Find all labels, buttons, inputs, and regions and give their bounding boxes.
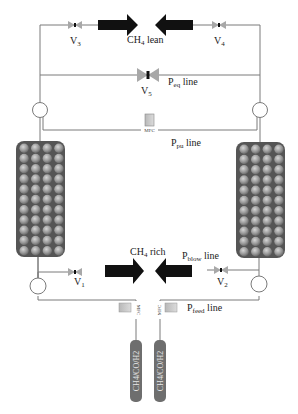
adsorbent-bead bbox=[43, 205, 52, 214]
mfc-label: MFC bbox=[136, 305, 141, 316]
adsorbent-bead bbox=[31, 185, 40, 194]
adsorbent-bead bbox=[274, 155, 283, 164]
feed-line-left bbox=[38, 296, 136, 340]
adsorbent-bead bbox=[251, 216, 260, 225]
adsorbent-bead bbox=[43, 195, 52, 204]
adsorbent-bead bbox=[274, 237, 283, 246]
adsorbent-bead bbox=[239, 237, 248, 246]
valve-v2[interactable] bbox=[214, 266, 228, 274]
adsorbent-bead bbox=[239, 227, 248, 236]
adsorbent-bead bbox=[251, 155, 260, 164]
adsorbent-bead bbox=[239, 145, 248, 154]
pblow-line-label: Pblow line bbox=[182, 250, 220, 263]
pressure-gauge-top-right bbox=[253, 103, 268, 118]
adsorbent-bead bbox=[31, 195, 40, 204]
adsorbent-bead bbox=[251, 165, 260, 174]
adsorbent-bead bbox=[239, 175, 248, 184]
adsorbent-bead bbox=[43, 226, 52, 235]
valve-stem bbox=[74, 23, 76, 27]
adsorbent-bead bbox=[31, 246, 40, 255]
pressure-gauge-top-left bbox=[33, 103, 48, 118]
adsorbent-bead bbox=[54, 215, 63, 224]
adsorbent-bead bbox=[274, 247, 283, 256]
adsorbent-bead bbox=[239, 186, 248, 195]
valve-v1[interactable] bbox=[68, 268, 82, 276]
valve-v1-label: V1 bbox=[74, 276, 85, 289]
adsorbent-bead bbox=[43, 185, 52, 194]
mfc-label: MFC bbox=[157, 304, 162, 315]
adsorbent-bead bbox=[263, 216, 272, 225]
adsorbent-bead bbox=[31, 226, 40, 235]
adsorbent-bead bbox=[251, 247, 260, 256]
gas-cylinder-right: CH4/CO/H2 bbox=[154, 340, 166, 402]
adsorbent-bead bbox=[263, 175, 272, 184]
adsorbent-bead bbox=[54, 174, 63, 183]
adsorbent-bead bbox=[54, 226, 63, 235]
valve-icon bbox=[214, 266, 221, 274]
mfc-purge: MFC bbox=[141, 114, 158, 133]
cylinder-label: CH4/CO/H2 bbox=[132, 351, 141, 391]
valve-v4-label: V4 bbox=[214, 35, 225, 48]
valve-icon-half bbox=[219, 21, 226, 29]
adsorbent-bead bbox=[263, 237, 272, 246]
pfeed-line-label: Pfeed line bbox=[187, 302, 223, 315]
mfc-body bbox=[165, 303, 177, 312]
adsorbent-bead bbox=[263, 155, 272, 164]
adsorbent-bead bbox=[263, 145, 272, 154]
ch4-rich-label: CH4 rich bbox=[130, 246, 165, 259]
adsorbent-bead bbox=[43, 144, 52, 153]
arrow-left-icon bbox=[155, 258, 192, 284]
adsorbent-bead bbox=[263, 165, 272, 174]
adsorbent-bead bbox=[54, 205, 63, 214]
valve-stem bbox=[74, 270, 76, 274]
valve-v3[interactable] bbox=[68, 21, 82, 29]
adsorption-column-left bbox=[16, 141, 65, 257]
ppu-line-label: Ppu line bbox=[171, 137, 202, 150]
adsorbent-bead bbox=[43, 236, 52, 245]
adsorbent-bead bbox=[263, 196, 272, 205]
ch4-lean-label: CH4 lean bbox=[127, 34, 164, 47]
adsorbent-bead bbox=[54, 195, 63, 204]
gas-cylinder-left: CH4/CO/H2 bbox=[130, 340, 142, 402]
bottom-left-line bbox=[38, 256, 78, 280]
adsorbent-bead bbox=[239, 155, 248, 164]
adsorbent-bead bbox=[19, 154, 28, 163]
pressure-gauge-bottom-right bbox=[251, 276, 267, 292]
mfc-body bbox=[119, 303, 131, 312]
adsorbent-bead bbox=[19, 185, 28, 194]
adsorbent-bead bbox=[31, 154, 40, 163]
adsorbent-bead bbox=[19, 205, 28, 214]
adsorbent-bead bbox=[43, 215, 52, 224]
adsorbent-bead bbox=[274, 206, 283, 215]
adsorbent-bead bbox=[19, 144, 28, 153]
adsorbent-bead bbox=[251, 186, 260, 195]
adsorbent-bead bbox=[54, 154, 63, 163]
valve-v5[interactable] bbox=[137, 68, 159, 82]
valve-v4[interactable] bbox=[212, 21, 226, 29]
adsorbent-bead bbox=[43, 154, 52, 163]
valve-icon-half bbox=[221, 266, 228, 274]
adsorbent-bead bbox=[251, 145, 260, 154]
adsorbent-bead bbox=[43, 174, 52, 183]
peq-line-label: Peq line bbox=[168, 76, 198, 89]
adsorbent-bead bbox=[263, 186, 272, 195]
adsorbent-bead bbox=[251, 206, 260, 215]
mfc-feed-right: MFC bbox=[157, 301, 177, 319]
adsorbent-bead bbox=[251, 227, 260, 236]
adsorbent-bead bbox=[239, 247, 248, 256]
mfc-body bbox=[145, 114, 154, 126]
pressure-gauge-bottom-left bbox=[30, 278, 46, 294]
adsorbent-bead bbox=[19, 226, 28, 235]
valve-v3-label: V3 bbox=[70, 35, 81, 48]
adsorbent-bead bbox=[54, 236, 63, 245]
adsorbent-bead bbox=[19, 195, 28, 204]
cylinder-label: CH4/CO/H2 bbox=[156, 351, 165, 391]
adsorbent-bead bbox=[54, 144, 63, 153]
psa-diagram: MFC MFC MFC CH4/CO/H2 CH4/CO/H2 V3 V4 CH… bbox=[0, 0, 298, 414]
adsorbent-bead bbox=[19, 246, 28, 255]
top-right-line bbox=[193, 25, 260, 104]
adsorbent-bead bbox=[274, 175, 283, 184]
adsorbent-bead bbox=[19, 236, 28, 245]
valve-icon bbox=[68, 21, 75, 29]
adsorbent-bead bbox=[54, 185, 63, 194]
